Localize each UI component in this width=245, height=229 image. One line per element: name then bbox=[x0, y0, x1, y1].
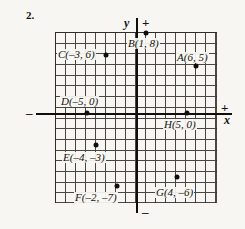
point-label-c: C(–3, 6) bbox=[57, 49, 96, 60]
y-axis-positive-sign: + bbox=[142, 16, 149, 29]
x-axis-line bbox=[36, 113, 232, 115]
point-label-f: F(–2, –7) bbox=[74, 192, 118, 203]
y-axis-negative-sign: – bbox=[142, 205, 149, 218]
point-marker-g bbox=[175, 175, 180, 180]
point-marker-b bbox=[144, 31, 149, 36]
x-axis-label: x bbox=[224, 114, 230, 126]
point-marker-e bbox=[94, 143, 99, 148]
problem-number: 2. bbox=[26, 9, 34, 21]
y-axis-label: y bbox=[124, 17, 129, 29]
point-marker-d bbox=[85, 111, 90, 116]
point-marker-h bbox=[185, 111, 190, 116]
point-marker-f bbox=[115, 184, 120, 189]
point-label-e: E(–4, –3) bbox=[62, 152, 106, 163]
x-axis-negative-sign: – bbox=[26, 106, 33, 119]
point-marker-a bbox=[194, 64, 199, 69]
point-label-b: B(1, 8) bbox=[127, 38, 160, 49]
point-label-d: D(–5, 0) bbox=[60, 96, 99, 107]
point-label-a: A(6, 5) bbox=[176, 52, 209, 63]
point-label-g: G(4, –6) bbox=[155, 187, 194, 198]
point-marker-c bbox=[104, 53, 109, 58]
coordinate-plane-figure: 2. + – + – y x A(6, 5)B(1, 8)C(–3, 6)D(–… bbox=[0, 0, 245, 229]
point-label-h: H(5, 0) bbox=[163, 119, 197, 130]
